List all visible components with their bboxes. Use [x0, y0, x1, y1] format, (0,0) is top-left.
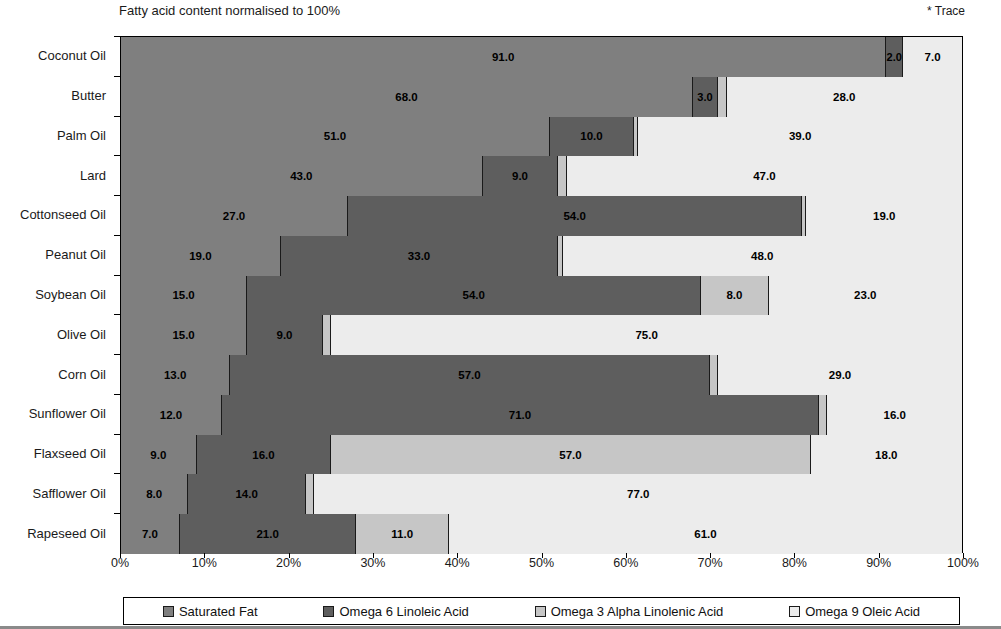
- bar-segment[interactable]: 75.0: [331, 315, 962, 355]
- legend-item[interactable]: Omega 6 Linoleic Acid: [323, 604, 468, 619]
- legend-item[interactable]: Omega 3 Alpha Linolenic Acid: [535, 604, 724, 619]
- bar-value-label: 54.0: [463, 289, 485, 301]
- bar-row[interactable]: 27.054.0*19.0: [121, 196, 962, 236]
- bar-segment[interactable]: 19.0: [121, 236, 281, 276]
- bar-row[interactable]: 19.033.0*48.0: [121, 236, 962, 276]
- bar-segment[interactable]: 12.0: [121, 395, 222, 435]
- bar-segment[interactable]: 10.0: [550, 117, 634, 157]
- bar-segment[interactable]: 9.0: [483, 156, 559, 196]
- plot-area: 91.02.07.068.03.01.028.051.010.0*39.043.…: [120, 36, 963, 553]
- x-axis-label: 60%: [613, 556, 638, 570]
- bar-segment[interactable]: 11.0: [356, 514, 449, 554]
- bar-segment[interactable]: 19.0: [806, 196, 962, 236]
- bar-segment[interactable]: 28.0: [727, 77, 962, 117]
- bar-segment[interactable]: 9.0: [121, 435, 197, 475]
- bar-segment[interactable]: 54.0: [247, 276, 701, 316]
- bar-segment[interactable]: 9.0: [247, 315, 323, 355]
- bar-segment[interactable]: 2.0: [886, 37, 903, 77]
- bar-value-label: 71.0: [509, 409, 531, 421]
- bar-value-label: 8.0: [726, 289, 742, 301]
- legend-label: Omega 6 Linoleic Acid: [339, 604, 468, 619]
- bar-segment[interactable]: 54.0: [348, 196, 802, 236]
- bar-segment[interactable]: 15.0: [121, 276, 247, 316]
- bar-segment[interactable]: 47.0: [567, 156, 962, 196]
- bar-segment[interactable]: 77.0: [314, 474, 962, 514]
- bar-segment[interactable]: 15.0: [121, 315, 247, 355]
- bar-segment[interactable]: 91.0: [121, 37, 886, 77]
- bar-segment[interactable]: 16.0: [827, 395, 962, 435]
- bar-value-label: 10.0: [580, 130, 602, 142]
- bar-value-label: 16.0: [884, 409, 906, 421]
- bar-row[interactable]: 51.010.0*39.0: [121, 117, 962, 157]
- bar-value-label: 27.0: [223, 210, 245, 222]
- bar-segment[interactable]: 1.0: [558, 156, 566, 196]
- bar-segment[interactable]: 71.0: [222, 395, 819, 435]
- bar-segment[interactable]: 29.0: [718, 355, 962, 395]
- bar-segment[interactable]: 27.0: [121, 196, 348, 236]
- bar-segment[interactable]: 21.0: [180, 514, 357, 554]
- bar-row[interactable]: 8.014.01.077.0: [121, 474, 962, 514]
- bar-value-label: 47.0: [753, 170, 775, 182]
- bar-row[interactable]: 68.03.01.028.0: [121, 77, 962, 117]
- bar-segment[interactable]: 1.0: [710, 355, 718, 395]
- legend-swatch-icon: [535, 606, 546, 617]
- bar-segment[interactable]: 39.0: [638, 117, 962, 157]
- bar-segment[interactable]: 13.0: [121, 355, 230, 395]
- y-axis-label: Soybean Oil: [35, 275, 106, 315]
- legend-swatch-icon: [163, 606, 174, 617]
- bar-segment[interactable]: 43.0: [121, 156, 483, 196]
- bar-row[interactable]: 13.057.01.029.0: [121, 355, 962, 395]
- bar-value-label: 8.0: [146, 488, 162, 500]
- bar-value-label: 19.0: [873, 210, 895, 222]
- bar-value-label: 91.0: [492, 51, 514, 63]
- legend-item[interactable]: Saturated Fat: [163, 604, 258, 619]
- bar-segment[interactable]: 18.0: [811, 435, 962, 475]
- bar-value-label: 9.0: [150, 449, 166, 461]
- legend-swatch-icon: [323, 606, 334, 617]
- bar-segment[interactable]: 57.0: [331, 435, 810, 475]
- y-axis-label: Rapeseed Oil: [27, 513, 106, 553]
- bar-value-label: 28.0: [833, 91, 855, 103]
- chart-subtitle: Fatty acid content normalised to 100%: [119, 3, 340, 18]
- bar-segment[interactable]: 16.0: [197, 435, 332, 475]
- bar-segment[interactable]: 1.0: [323, 315, 331, 355]
- bar-row[interactable]: 15.054.08.023.0: [121, 276, 962, 316]
- bar-row[interactable]: 91.02.07.0: [121, 37, 962, 77]
- bar-value-label: 48.0: [751, 250, 773, 262]
- bar-value-label: 43.0: [290, 170, 312, 182]
- bar-segment[interactable]: 1.0: [718, 77, 726, 117]
- bar-value-label: 23.0: [854, 289, 876, 301]
- bar-segment[interactable]: 33.0: [281, 236, 559, 276]
- bar-segment[interactable]: 1.0: [306, 474, 314, 514]
- legend-item[interactable]: Omega 9 Oleic Acid: [789, 604, 920, 619]
- bar-segment[interactable]: 57.0: [230, 355, 709, 395]
- bar-segment[interactable]: 14.0: [188, 474, 306, 514]
- bar-value-label: 18.0: [875, 449, 897, 461]
- bar-value-label: 3.0: [697, 91, 712, 103]
- bar-row[interactable]: 15.09.01.075.0: [121, 315, 962, 355]
- legend-label: Saturated Fat: [179, 604, 258, 619]
- bar-value-label: 61.0: [694, 528, 716, 540]
- bar-segment[interactable]: 61.0: [449, 514, 962, 554]
- bar-segment[interactable]: 3.0: [693, 77, 718, 117]
- bar-segment[interactable]: 23.0: [769, 276, 962, 316]
- bar-segment[interactable]: 7.0: [121, 514, 180, 554]
- x-axis-label: 80%: [782, 556, 807, 570]
- y-axis-label: Butter: [71, 76, 106, 116]
- bar-row[interactable]: 9.016.057.018.0: [121, 435, 962, 475]
- bar-segment[interactable]: 51.0: [121, 117, 550, 157]
- bar-row[interactable]: 43.09.01.047.0: [121, 156, 962, 196]
- bar-segment[interactable]: 48.0: [563, 236, 962, 276]
- bar-segment[interactable]: 8.0: [701, 276, 768, 316]
- x-axis-label: 20%: [276, 556, 301, 570]
- bar-segment[interactable]: 8.0: [121, 474, 188, 514]
- bar-row[interactable]: 12.071.01.016.0: [121, 395, 962, 435]
- bar-value-label: 19.0: [189, 250, 211, 262]
- y-axis-label: Palm Oil: [57, 116, 106, 156]
- bar-segment[interactable]: 7.0: [903, 37, 962, 77]
- bar-segment[interactable]: 68.0: [121, 77, 693, 117]
- bar-segment[interactable]: 1.0: [819, 395, 827, 435]
- bar-value-label: 13.0: [164, 369, 186, 381]
- bar-row[interactable]: 7.021.011.061.0: [121, 514, 962, 554]
- bar-value-label: 16.0: [252, 449, 274, 461]
